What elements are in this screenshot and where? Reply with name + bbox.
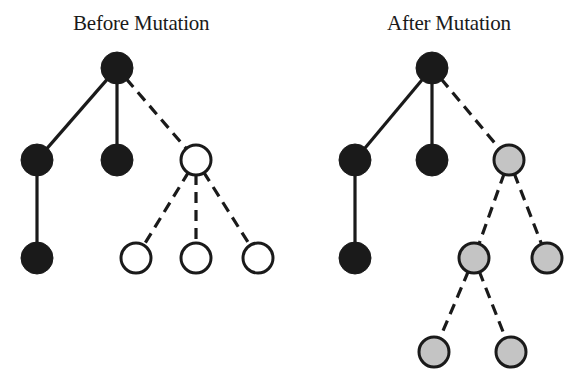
black-tree-node bbox=[416, 52, 448, 84]
dashed-edge bbox=[479, 173, 505, 245]
black-tree-node bbox=[21, 144, 53, 176]
white-tree-node bbox=[243, 243, 273, 273]
gray-tree-node bbox=[419, 337, 449, 367]
solid-edge bbox=[46, 79, 108, 150]
dashed-edge bbox=[441, 79, 500, 150]
solid-edge bbox=[364, 79, 423, 150]
black-tree-node bbox=[339, 144, 371, 176]
black-tree-node bbox=[101, 52, 133, 84]
black-tree-node bbox=[339, 242, 371, 274]
gray-tree-node bbox=[494, 145, 524, 175]
black-tree-node bbox=[416, 144, 448, 176]
gray-tree-node bbox=[532, 243, 562, 273]
dashed-edge bbox=[126, 79, 187, 150]
dashed-edge bbox=[143, 172, 188, 246]
black-tree-node bbox=[101, 144, 133, 176]
after-tree-edges bbox=[355, 79, 542, 339]
white-tree-node bbox=[181, 243, 211, 273]
dashed-edge bbox=[479, 271, 506, 339]
dashed-edge bbox=[440, 271, 469, 339]
dashed-edge bbox=[204, 172, 251, 246]
mutation-trees-diagram bbox=[0, 0, 578, 386]
white-tree-node bbox=[181, 145, 211, 175]
before-tree-edges bbox=[37, 79, 251, 247]
nodes-layer bbox=[21, 52, 562, 367]
white-tree-node bbox=[121, 243, 151, 273]
dashed-edge bbox=[514, 173, 542, 245]
edges-layer bbox=[37, 79, 542, 340]
gray-tree-node bbox=[496, 337, 526, 367]
gray-tree-node bbox=[459, 243, 489, 273]
black-tree-node bbox=[21, 242, 53, 274]
